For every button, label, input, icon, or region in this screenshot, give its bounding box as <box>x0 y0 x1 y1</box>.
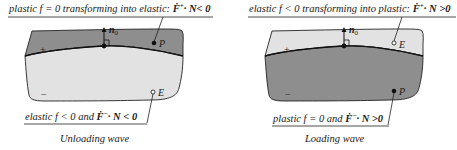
caption-loading-wave: Loading wave <box>304 133 365 144</box>
minus-sign: − <box>285 89 291 100</box>
interface-point <box>102 44 107 49</box>
plus-sign: + <box>284 44 290 55</box>
point-e-hollow <box>392 41 396 45</box>
top-label: plastic f = 0 transforming into elastic:… <box>8 2 211 14</box>
wave-diagram: plastic f = 0 transforming into elastic:… <box>0 0 457 150</box>
point-e-hollow <box>151 90 155 94</box>
top-label: elastic f < 0 transforming into plastic:… <box>249 2 451 14</box>
bottom-label: plastic f = 0 and Ḟ−· N >0 <box>272 112 384 124</box>
point-p-label: P <box>158 38 165 49</box>
panel-unloading-wave: plastic f = 0 transforming into elastic:… <box>8 2 213 144</box>
bottom-label: elastic f < 0 and Ḟ−· N < 0 <box>25 110 138 122</box>
plus-sign: + <box>40 44 46 55</box>
interface-point <box>342 44 347 49</box>
point-e-label: E <box>398 39 405 50</box>
point-e-label: E <box>157 87 164 98</box>
minus-sign: − <box>41 89 47 100</box>
point-p-label: P <box>398 86 405 97</box>
point-p-filled <box>152 41 157 46</box>
point-p-filled <box>392 89 397 94</box>
caption-unloading-wave: Unloading wave <box>60 133 129 144</box>
panel-loading-wave: elastic f < 0 transforming into plastic:… <box>248 2 456 144</box>
